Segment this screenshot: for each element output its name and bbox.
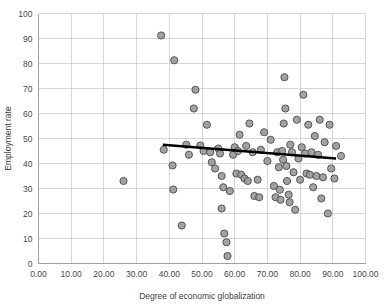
x-tick-label: 20.00 <box>93 269 115 279</box>
x-tick-label: 80.00 <box>289 269 311 279</box>
data-point <box>321 139 328 146</box>
data-point <box>267 136 274 143</box>
data-point <box>305 121 312 128</box>
data-point <box>120 177 127 184</box>
data-point <box>292 206 299 213</box>
scatter-chart: 0102030405060708090100 0.0010.0020.0030.… <box>0 0 386 306</box>
x-tick-label: 0.00 <box>30 269 47 279</box>
data-point <box>223 239 230 246</box>
y-tick-label: 70 <box>23 84 33 94</box>
data-point <box>185 151 192 158</box>
data-point <box>280 120 287 127</box>
data-point <box>192 86 199 93</box>
data-point <box>290 169 297 176</box>
data-point <box>300 91 307 98</box>
y-tick-label: 90 <box>23 34 33 44</box>
data-point <box>216 150 223 157</box>
data-point <box>160 146 167 153</box>
data-point <box>275 164 282 171</box>
x-tick-label: 70.00 <box>257 269 279 279</box>
data-point <box>243 142 250 149</box>
data-point <box>286 199 293 206</box>
data-point <box>246 120 253 127</box>
data-point <box>244 177 251 184</box>
data-point <box>264 157 271 164</box>
data-point <box>171 57 178 64</box>
data-point <box>319 174 326 181</box>
x-tick-label: 90.00 <box>322 269 344 279</box>
data-point <box>293 116 300 123</box>
y-tick-label: 50 <box>23 134 33 144</box>
data-point <box>218 205 225 212</box>
data-point <box>282 105 289 112</box>
data-point <box>178 222 185 229</box>
y-tick-label: 30 <box>23 184 33 194</box>
data-point <box>203 121 210 128</box>
x-tick-label: 60.00 <box>224 269 246 279</box>
y-tick-label: 0 <box>28 259 33 269</box>
data-point <box>158 32 165 39</box>
data-point <box>287 141 294 148</box>
data-point <box>318 195 325 202</box>
x-tick-label: 100.00 <box>353 269 379 279</box>
y-tick-label: 10 <box>23 234 33 244</box>
y-tick-label: 60 <box>23 109 33 119</box>
y-tick-label: 20 <box>23 209 33 219</box>
data-point <box>276 186 283 193</box>
data-point <box>337 152 344 159</box>
data-point <box>326 121 333 128</box>
y-axis-tick-labels: 0102030405060708090100 <box>18 9 32 269</box>
data-point <box>281 74 288 81</box>
y-tick-label: 40 <box>23 159 33 169</box>
data-point <box>277 196 284 203</box>
y-axis-title: Employment rate <box>3 106 13 171</box>
x-tick-label: 10.00 <box>61 269 83 279</box>
chart-canvas: 0102030405060708090100 0.0010.0020.0030.… <box>0 0 386 306</box>
data-point <box>306 171 313 178</box>
data-point <box>218 172 225 179</box>
data-point <box>211 165 218 172</box>
x-axis-title: Degree of economic globalization <box>139 291 265 301</box>
data-point <box>224 252 231 259</box>
data-point <box>220 184 227 191</box>
x-tick-label: 50.00 <box>191 269 213 279</box>
data-point <box>310 184 317 191</box>
data-point <box>261 129 268 136</box>
data-point <box>170 186 177 193</box>
data-point <box>221 230 228 237</box>
data-point <box>331 175 338 182</box>
data-point <box>283 162 290 169</box>
data-point <box>328 165 335 172</box>
data-point <box>169 162 176 169</box>
y-tick-label: 80 <box>23 59 33 69</box>
data-point <box>283 177 290 184</box>
data-point <box>256 194 263 201</box>
data-point <box>316 116 323 123</box>
x-axis-tick-labels: 0.0010.0020.0030.0040.0050.0060.0070.008… <box>30 269 379 279</box>
x-tick-label: 30.00 <box>126 269 148 279</box>
data-point <box>324 210 331 217</box>
data-point <box>297 176 304 183</box>
data-point <box>254 176 261 183</box>
y-tick-label: 100 <box>18 9 32 19</box>
x-tick-label: 40.00 <box>159 269 181 279</box>
data-point <box>313 172 320 179</box>
data-point <box>226 187 233 194</box>
data-point <box>285 191 292 198</box>
data-point <box>332 142 339 149</box>
data-point <box>311 132 318 139</box>
data-points-layer <box>120 32 345 260</box>
data-point <box>190 105 197 112</box>
data-point <box>236 131 243 138</box>
